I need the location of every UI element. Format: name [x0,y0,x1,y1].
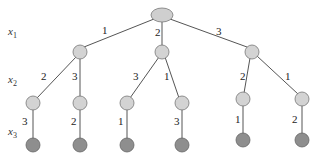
edge-label-l3-2: 1 [118,115,124,127]
edge-c-cb [257,56,298,94]
leaf-node-5 [236,133,250,147]
row-label-x1: x1 [7,25,17,40]
node-x2-1 [26,96,40,110]
node-x2-6 [295,92,309,106]
edge-label-l3-1: 2 [71,115,77,127]
edge-label-l1-0: 1 [102,24,108,36]
node-x1-3 [245,45,259,59]
leaf-node-6 [295,133,309,147]
edge-root-a [84,19,154,47]
edge-label-l2-4: 2 [240,70,246,82]
edge-label-l2-0: 2 [41,70,47,82]
edge-label-l2-1: 3 [72,70,78,82]
edge-label-l3-0: 3 [22,115,28,127]
leaf-node-3 [120,138,134,152]
permutation-tree-diagram: x1 x2 x3 1 2 3 2 3 3 1 2 1 3 2 1 3 1 2 [0,0,318,161]
edge-label-l2-3: 1 [164,70,170,82]
row-label-x3: x3 [7,125,17,140]
root-node [151,8,173,22]
node-x2-2 [73,96,87,110]
node-x1-1 [73,45,87,59]
node-x2-5 [236,92,250,106]
edge-label-l1-1: 2 [155,26,161,38]
edge-label-l1-2: 3 [216,25,222,37]
leaf-node-4 [175,138,189,152]
edge-label-l2-5: 1 [285,70,291,82]
level1-edges [84,19,247,47]
edge-root-c [170,19,247,47]
row-label-x2: x2 [7,73,17,88]
edge-label-l2-2: 3 [133,70,139,82]
node-x2-3 [120,96,134,110]
leaf-node-2 [73,138,87,152]
node-x1-2 [155,45,169,59]
edge-label-l3-3: 3 [174,115,180,127]
node-x2-4 [175,96,189,110]
edge-label-l3-4: 1 [235,113,241,125]
leaf-node-1 [26,138,40,152]
edge-label-l3-5: 2 [292,113,298,125]
